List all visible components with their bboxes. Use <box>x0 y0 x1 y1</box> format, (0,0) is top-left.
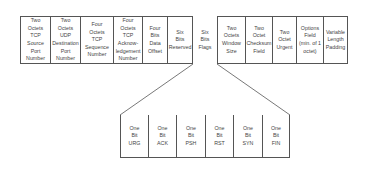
right-connector-line <box>217 64 290 115</box>
left-connector-line <box>120 64 193 115</box>
connector-lines <box>0 0 365 171</box>
